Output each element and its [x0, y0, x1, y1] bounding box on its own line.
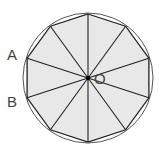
- label-vertex-b: B: [7, 93, 17, 110]
- decagon-diagram: O A B: [0, 0, 159, 163]
- center-point: [86, 76, 91, 81]
- label-center-o: O: [94, 70, 106, 87]
- label-vertex-a: A: [7, 46, 17, 63]
